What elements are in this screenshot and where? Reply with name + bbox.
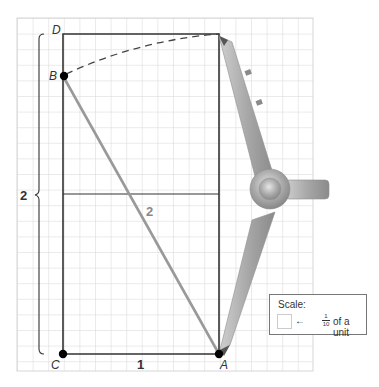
point-b <box>60 72 68 80</box>
scale-legend: Scale: ← 1 10 of a unit <box>269 294 367 335</box>
scale-square <box>277 314 292 329</box>
label-b: B <box>49 69 57 83</box>
label-a: A <box>219 358 228 372</box>
label-hypotenuse: 2 <box>146 204 153 219</box>
point-c <box>59 350 67 358</box>
label-d: D <box>52 23 61 37</box>
fraction-numerator: 1 <box>324 313 327 319</box>
fraction-denominator: 10 <box>323 321 330 327</box>
scale-title: Scale: <box>278 299 306 310</box>
label-height: 2 <box>20 188 27 203</box>
scale-fraction: 1 10 <box>322 313 330 328</box>
label-base: 1 <box>137 357 144 372</box>
scale-text: of a unit <box>333 316 366 338</box>
label-c: C <box>51 358 60 372</box>
point-a <box>215 350 223 358</box>
arrow-left-icon: ← <box>295 315 305 326</box>
